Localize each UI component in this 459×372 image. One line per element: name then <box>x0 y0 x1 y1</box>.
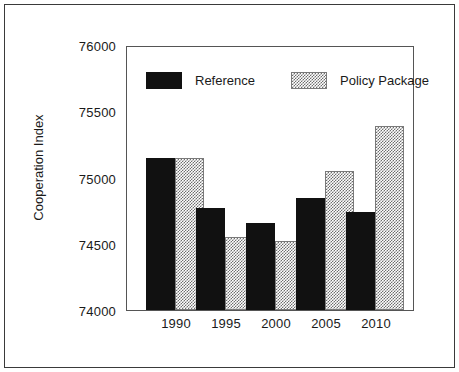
legend-swatch-policy-package-icon <box>291 72 327 89</box>
y-tick-label-75000: 75000 <box>50 172 116 187</box>
bar-policy-package-2010 <box>375 126 404 310</box>
x-tick-label-2010: 2010 <box>346 316 406 331</box>
bar-reference-1995 <box>196 208 225 310</box>
y-axis-title: Cooperation Index <box>31 88 46 248</box>
legend-entry-policy-package: Policy Package <box>291 72 429 89</box>
bar-reference-2010 <box>346 212 375 310</box>
chart-figure: Cooperation Index 76000 75500 75000 7450… <box>0 0 459 372</box>
bar-reference-2000 <box>246 223 275 310</box>
legend-swatch-reference-icon <box>146 72 182 89</box>
y-tick-label-74000: 74000 <box>50 304 116 319</box>
y-tick-label-76000: 76000 <box>50 39 116 54</box>
bar-reference-1990 <box>146 158 175 310</box>
y-tick-label-74500: 74500 <box>50 238 116 253</box>
legend-label-reference: Reference <box>195 73 255 88</box>
y-tick-label-75500: 75500 <box>50 105 116 120</box>
bar-reference-2005 <box>296 198 325 310</box>
chart-legend: Reference Policy Package <box>146 72 429 89</box>
legend-label-policy-package: Policy Package <box>340 73 429 88</box>
legend-entry-reference: Reference <box>146 72 255 89</box>
